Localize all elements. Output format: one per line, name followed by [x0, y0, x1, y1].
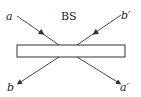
beam-b-out: [19, 57, 59, 83]
label-a: a: [6, 10, 13, 23]
beam-a-prime-out: [77, 57, 119, 83]
label-bs: BS: [61, 10, 77, 23]
beam-splitter-diagram: a BS b′ b a′: [0, 0, 141, 97]
label-b-prime: b′: [121, 9, 131, 22]
label-b: b: [7, 81, 14, 94]
beam-a-in: [17, 16, 59, 45]
label-a-prime: a′: [120, 81, 130, 94]
beam-b-prime-in: [77, 15, 121, 45]
beam-splitter-rect: [17, 45, 125, 57]
